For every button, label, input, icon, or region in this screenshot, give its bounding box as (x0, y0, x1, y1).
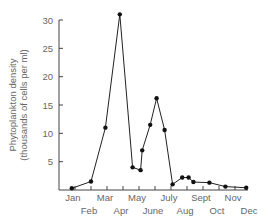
x-tick-label-dec: Dec (241, 205, 258, 216)
data-point (191, 180, 195, 184)
data-point (162, 128, 166, 132)
data-point (154, 96, 158, 100)
data-point (186, 175, 190, 179)
x-tick-label-july: July (161, 192, 178, 203)
x-tick-label-jan: Jan (65, 192, 80, 203)
y-axis-title-line2: (thousands of cells per ml) (18, 49, 29, 160)
x-tick-label-apr: Apr (114, 205, 129, 216)
x-tick-label-oct: Oct (210, 205, 225, 216)
line-chart: 51015202530JanFebMarAprMayJuneJulyAugSep… (0, 0, 268, 223)
y-tick-label: 30 (42, 15, 53, 26)
x-tick-label-feb: Feb (81, 205, 97, 216)
data-point (140, 148, 144, 152)
x-tick-label-sept: Sept (191, 192, 211, 203)
x-tick-label-mar: Mar (97, 192, 113, 203)
data-point (103, 125, 107, 129)
x-tick-label-june: June (143, 205, 164, 216)
data-point (170, 182, 174, 186)
data-point (223, 184, 227, 188)
data-point (138, 168, 142, 172)
x-tick-label-aug: Aug (177, 205, 194, 216)
data-line (72, 14, 246, 188)
data-point (244, 186, 248, 190)
y-tick-label: 10 (42, 128, 53, 139)
y-tick-label: 20 (42, 71, 53, 82)
x-tick-label-nov: Nov (225, 192, 242, 203)
y-tick-label: 5 (48, 156, 53, 167)
y-tick-label: 25 (42, 43, 53, 54)
y-tick-label: 15 (42, 100, 53, 111)
data-point (180, 175, 184, 179)
y-axis-title-line1: Phytoplankton density (7, 58, 18, 151)
data-point (148, 123, 152, 127)
data-point (70, 186, 74, 190)
data-point (118, 12, 122, 16)
data-point (89, 179, 93, 183)
data-point (207, 180, 211, 184)
data-point (130, 165, 134, 169)
x-tick-label-may: May (128, 192, 146, 203)
